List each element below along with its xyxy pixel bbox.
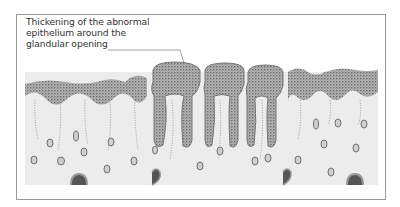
leader-line (108, 50, 184, 63)
annotation-line-1: Thickening of the abnormal (26, 16, 176, 27)
annotation-label: Thickening of the abnormal epithelium ar… (26, 16, 176, 49)
annotation-line-2: epithelium around the (26, 27, 176, 38)
annotation-line-3: glandular opening (26, 38, 176, 49)
